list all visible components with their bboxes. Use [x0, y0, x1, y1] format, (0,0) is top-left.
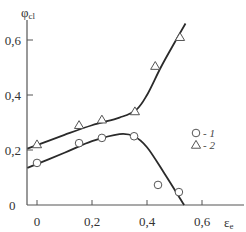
circle-marker: [98, 134, 106, 142]
y-tick-label: 0,2: [5, 143, 21, 158]
x-tick-label: 0,4: [139, 214, 156, 229]
legend: - 1- 2: [191, 127, 215, 151]
circle-marker: [33, 159, 41, 167]
triangle-marker: [151, 62, 160, 70]
curves: [27, 24, 185, 206]
y-axis-label-sub: cl: [29, 11, 36, 21]
x-tick-label: 0,2: [84, 214, 100, 229]
x-tick-label: 0,6: [194, 214, 211, 229]
x-axis-label: εe: [224, 215, 233, 231]
series-2-curve: [27, 24, 185, 149]
y-tick-label: 0: [9, 198, 16, 213]
y-tick-label: 0,6: [5, 33, 22, 48]
series-1-curve: [27, 134, 184, 205]
x-axis-label-sub: e: [229, 221, 233, 231]
circle-marker: [75, 139, 83, 147]
triangle-marker: [97, 115, 106, 123]
triangle-marker: [175, 33, 184, 41]
circle-marker: [175, 188, 183, 196]
circle-marker: [130, 132, 138, 140]
legend-triangle-icon: [191, 140, 200, 148]
legend-label: - 2: [203, 139, 215, 151]
legend-circle-icon: [192, 129, 200, 137]
legend-label: - 1: [203, 127, 215, 139]
markers: [32, 33, 184, 196]
chart: 00,20,40,600,20,40,6 - 1- 2 φcl εe: [0, 0, 246, 232]
triangle-marker: [74, 121, 83, 129]
circle-marker: [154, 181, 162, 189]
y-tick-label: 0,4: [5, 88, 22, 103]
x-tick-label: 0: [34, 214, 41, 229]
y-axis-label: φcl: [21, 5, 36, 21]
